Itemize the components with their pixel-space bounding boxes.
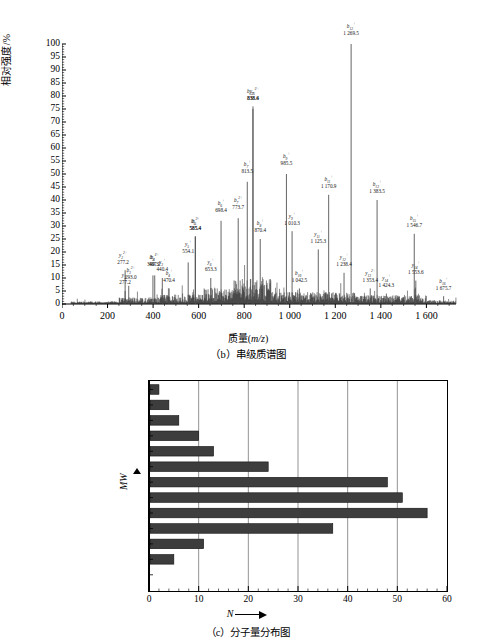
mw-x-tick-10: 10 bbox=[194, 594, 204, 604]
ms-peak-label: y11+1 125.3 bbox=[311, 230, 327, 245]
mw-x-axis-label-text: N bbox=[227, 608, 234, 619]
ms-peak-label: b8+870.4 bbox=[254, 220, 266, 235]
ms-peak-label: b15+1 546.7 bbox=[406, 214, 422, 229]
ms-x-axis-label-italic: m/z bbox=[251, 333, 265, 344]
ms-y-tick-5: 5 bbox=[34, 286, 60, 296]
ms-plot-area: 0510152025303540455055606570758085909510… bbox=[62, 38, 462, 316]
ms-x-tick-400: 400 bbox=[146, 310, 161, 321]
ms-y-tick-100: 100 bbox=[34, 39, 60, 49]
ms-peak-label: y6+653.3 bbox=[205, 259, 217, 274]
ms-y-tick-75: 75 bbox=[34, 104, 60, 114]
ms-peak-label: y14+1 424.3 bbox=[379, 274, 395, 289]
ms-y-tick-80: 80 bbox=[34, 91, 60, 101]
ms-peak-label: b2252+838.6 bbox=[247, 87, 259, 102]
ms-peak-label: b72+773.7 bbox=[232, 196, 244, 211]
ms-y-tick-20: 20 bbox=[34, 247, 60, 257]
ms-x-axis-label-prefix: 质量( bbox=[228, 333, 251, 344]
ms-y-tick-70: 70 bbox=[34, 117, 60, 127]
ms-x-tick-800: 800 bbox=[237, 310, 252, 321]
ms-peak-label: b11+1 170.9 bbox=[321, 175, 337, 190]
ms-y-axis-label: 相对强度/% bbox=[0, 0, 13, 120]
ms-peak-label: b7+813.5 bbox=[241, 160, 253, 175]
ms-peak-label: b10+1 042.5 bbox=[292, 269, 308, 284]
ms-x-tick-200: 200 bbox=[100, 310, 115, 321]
panel-tandem-mass-spectrum: 相对强度/% 051015202530354045505560657075808… bbox=[0, 0, 496, 360]
ms-y-tick-45: 45 bbox=[34, 182, 60, 192]
ms-peak-label: y5+554.1 bbox=[182, 240, 194, 255]
ms-x-tick-1600: 1 600 bbox=[415, 310, 438, 321]
ms-y-tick-85: 85 bbox=[34, 78, 60, 88]
ms-y-tick-95: 95 bbox=[34, 52, 60, 62]
ms-y-tick-50: 50 bbox=[34, 169, 60, 179]
ms-peak-label: y22+277.2 bbox=[117, 251, 129, 266]
ms-peak-label: b6+698.4 bbox=[215, 199, 227, 214]
mw-x-tick-30: 30 bbox=[293, 594, 303, 604]
panel-mw-distribution: MW 3 000～3 2002 800～3 0002 600～2 8002 40… bbox=[0, 372, 496, 642]
mw-plot-area bbox=[148, 380, 448, 592]
panel-c-caption: （c）分子量分布图 bbox=[0, 624, 496, 639]
mw-y-axis-label: MW bbox=[118, 473, 129, 490]
ms-y-tick-90: 90 bbox=[34, 65, 60, 75]
ms-x-axis-label: 质量(m/z) bbox=[0, 330, 496, 345]
ms-peak-label: b9+985.5 bbox=[281, 152, 293, 167]
ms-y-tick-60: 60 bbox=[34, 143, 60, 153]
ms-y-tick-40: 40 bbox=[34, 195, 60, 205]
ms-peak-label: b13+1 383.5 bbox=[369, 181, 385, 196]
ms-peak-label: y14+1 553.6 bbox=[408, 261, 424, 276]
ms-peak-label: b4+470.4 bbox=[163, 269, 175, 284]
ms-y-tick-30: 30 bbox=[34, 221, 60, 231]
ms-y-tick-0: 0 bbox=[34, 299, 60, 309]
ms-peak-label: b32+293.0 bbox=[125, 266, 137, 281]
ms-y-tick-55: 55 bbox=[34, 156, 60, 166]
ms-y-tick-10: 10 bbox=[34, 273, 60, 283]
mw-x-tick-20: 20 bbox=[244, 594, 254, 604]
mw-x-axis-arrow-icon bbox=[235, 612, 269, 618]
mw-x-tick-50: 50 bbox=[393, 594, 403, 604]
mw-bar-svg bbox=[149, 381, 447, 591]
ms-x-tick-1400: 1 400 bbox=[370, 310, 393, 321]
ms-x-axis-label-suffix: ) bbox=[265, 333, 268, 344]
ms-x-tick-1200: 1 200 bbox=[324, 310, 347, 321]
ms-y-tick-35: 35 bbox=[34, 208, 60, 218]
panel-b-caption: （b）串级质谱图 bbox=[0, 346, 496, 361]
ms-peak-label: y9+1 010.3 bbox=[284, 212, 300, 227]
ms-x-tick-1000: 1 000 bbox=[278, 310, 301, 321]
mw-x-tick-0: 0 bbox=[147, 594, 152, 604]
ms-peak-label: y12+1 238.4 bbox=[336, 253, 352, 268]
ms-peak-label: b5+585.4 bbox=[189, 217, 201, 232]
ms-y-tick-15: 15 bbox=[34, 260, 60, 270]
ms-peak-label: b12+1 269.5 bbox=[343, 22, 359, 37]
ms-peak-label: y132+1 353.4 bbox=[362, 269, 378, 284]
ms-x-tick-600: 600 bbox=[191, 310, 206, 321]
mw-y-axis-arrow-icon bbox=[133, 468, 141, 474]
ms-y-tick-25: 25 bbox=[34, 234, 60, 244]
mw-x-tick-40: 40 bbox=[343, 594, 353, 604]
mw-x-tick-60: 60 bbox=[442, 594, 452, 604]
figure-container: 相对强度/% 051015202530354045505560657075808… bbox=[0, 0, 496, 642]
mw-x-axis-label: N bbox=[0, 608, 496, 619]
ms-peak-label: b16+1 675.7 bbox=[436, 277, 452, 292]
ms-x-tick-0: 0 bbox=[60, 310, 65, 321]
ms-y-tick-65: 65 bbox=[34, 130, 60, 140]
